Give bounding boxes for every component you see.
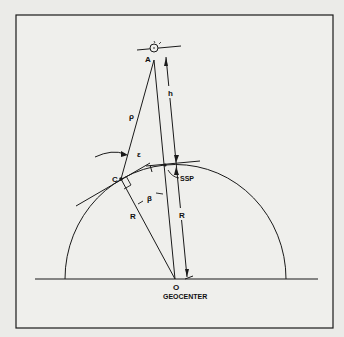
label-r-left: R [130,212,136,221]
label-beta: β [147,194,152,203]
label-c: C [112,175,118,184]
label-epsilon: ε [137,150,141,159]
label-a: A [145,55,151,64]
label-geocenter: GEOCENTER [163,293,207,300]
frame [16,15,333,328]
geometry-diagram: A ρ h ε C SSP β R R O GEOCENTER [0,0,344,337]
point-c [119,177,123,181]
label-ssp: SSP [180,175,194,182]
label-rho: ρ [129,112,134,121]
label-r-right: R [179,211,185,220]
point-ssp [163,163,166,166]
label-o: O [173,283,179,292]
label-h: h [168,89,173,98]
